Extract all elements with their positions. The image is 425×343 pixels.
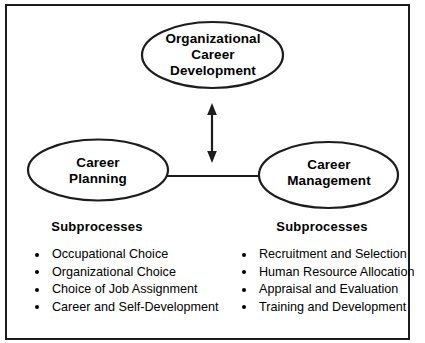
list-item-label: Career and Self-Development bbox=[52, 300, 219, 314]
node-label-organizational-career-development: Organizational Career Development bbox=[142, 31, 284, 79]
bullet-icon bbox=[35, 253, 39, 257]
list-item: Recruitment and Selection bbox=[240, 246, 412, 264]
list-item: Organizational Choice bbox=[33, 264, 215, 282]
list-item-label: Appraisal and Evaluation bbox=[259, 282, 398, 296]
list-item: Career and Self-Development bbox=[33, 299, 215, 317]
list-item: Training and Development bbox=[240, 299, 412, 317]
node-line-2: Career bbox=[142, 47, 284, 63]
list-item-label: Occupational Choice bbox=[52, 247, 168, 261]
subprocess-list-right: Recruitment and Selection Human Resource… bbox=[232, 246, 412, 316]
bullet-icon bbox=[35, 305, 39, 309]
bullet-icon bbox=[35, 288, 39, 292]
bullet-icon bbox=[242, 270, 246, 274]
node-line-2: Management bbox=[259, 173, 399, 189]
bullet-icon bbox=[242, 288, 246, 292]
list-item: Choice of Job Assignment bbox=[33, 281, 215, 299]
bullet-icon bbox=[242, 253, 246, 257]
subprocess-list-left: Occupational Choice Organizational Choic… bbox=[25, 246, 215, 316]
node-line-1: Career bbox=[259, 157, 399, 173]
node-line-2: Planning bbox=[28, 171, 168, 187]
list-item-label: Choice of Job Assignment bbox=[52, 282, 198, 296]
subprocess-heading-left: Subprocesses bbox=[27, 219, 167, 234]
node-line-1: Organizational bbox=[142, 31, 284, 47]
subprocess-column-career-planning: Subprocesses Occupational Choice Organiz… bbox=[25, 219, 215, 316]
node-label-career-planning: Career Planning bbox=[28, 155, 168, 187]
list-item: Human Resource Allocation bbox=[240, 264, 412, 282]
node-label-career-management: Career Management bbox=[259, 157, 399, 189]
list-item-label: Training and Development bbox=[259, 300, 406, 314]
diagram-canvas: Organizational Career Development Career… bbox=[0, 0, 425, 343]
list-item-label: Recruitment and Selection bbox=[259, 247, 407, 261]
node-line-3: Development bbox=[142, 63, 284, 79]
list-item-label: Organizational Choice bbox=[52, 265, 176, 279]
subprocess-heading-right: Subprocesses bbox=[232, 219, 412, 234]
list-item: Occupational Choice bbox=[33, 246, 215, 264]
list-item: Appraisal and Evaluation bbox=[240, 281, 412, 299]
node-line-1: Career bbox=[28, 155, 168, 171]
bullet-icon bbox=[242, 305, 246, 309]
list-item-label: Human Resource Allocation bbox=[259, 265, 414, 279]
bullet-icon bbox=[35, 270, 39, 274]
subprocess-column-career-management: Subprocesses Recruitment and Selection H… bbox=[232, 219, 412, 316]
